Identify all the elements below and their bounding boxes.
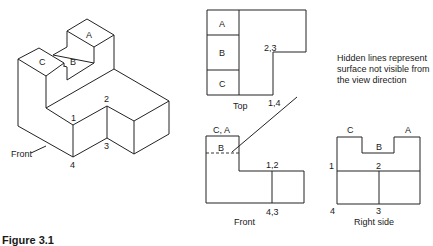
right-label-2: 2 [376, 161, 381, 171]
front-label-12: 1,2 [266, 160, 279, 170]
top-cell-a: A [219, 19, 225, 29]
isometric-view: A B C 1 2 3 4 Front [11, 19, 169, 170]
right-side-view: C A B 1 2 3 4 Right side [329, 125, 420, 227]
right-label-3: 3 [376, 206, 381, 216]
iso-label-3: 3 [104, 141, 109, 151]
right-view-title: Right side [354, 217, 394, 227]
iso-label-b: B [70, 57, 76, 67]
iso-label-2: 2 [104, 94, 109, 104]
front-view-title: Front [234, 217, 256, 227]
top-view: A B C 2,3 1,4 Top [207, 10, 306, 111]
hidden-lines-annotation: Hidden lines represent surface not visib… [337, 53, 433, 86]
top-label-23: 2,3 [264, 43, 277, 53]
front-label-43: 4,3 [266, 207, 279, 217]
iso-label-a: A [86, 30, 92, 40]
right-label-b: B [376, 142, 382, 152]
front-view: C, A B 1,2 4,3 Front [206, 125, 304, 227]
right-label-4: 4 [330, 206, 335, 216]
top-label-14: 1,4 [268, 98, 281, 108]
top-cell-b: B [219, 48, 225, 58]
top-cell-c: C [219, 79, 226, 89]
front-label-b: B [218, 143, 224, 153]
iso-label-front: Front [11, 149, 33, 159]
iso-label-1: 1 [71, 113, 76, 123]
top-view-title: Top [233, 101, 248, 111]
iso-label-4: 4 [70, 160, 75, 170]
right-label-1: 1 [329, 161, 334, 171]
figure-caption: Figure 3.1 [2, 234, 54, 246]
right-label-c: C [347, 125, 354, 135]
front-leader-line [31, 146, 46, 153]
front-label-ca: C, A [213, 125, 230, 135]
iso-label-c: C [39, 57, 46, 67]
right-label-a: A [405, 125, 411, 135]
